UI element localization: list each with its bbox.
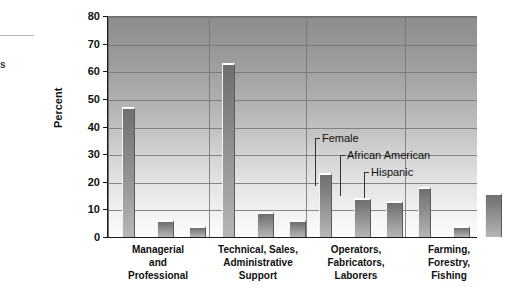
annotation-label: African American [347, 149, 430, 161]
y-axis-title: Percent [52, 48, 66, 128]
bar[interactable] [485, 193, 502, 237]
y-tick-mark [103, 209, 107, 210]
y-tick-mark [103, 182, 107, 183]
bar[interactable] [354, 198, 371, 237]
bar[interactable] [157, 220, 174, 237]
bar[interactable] [257, 212, 274, 237]
category-label: Farming, Forestry, Fishing [389, 243, 506, 282]
y-tick-mark [103, 154, 107, 155]
bar[interactable] [289, 220, 306, 237]
annotation-label: Hispanic [371, 166, 413, 178]
y-tick-mark [103, 71, 107, 72]
bar[interactable] [189, 226, 206, 237]
annotation-leader-vertical [364, 172, 365, 198]
y-tick-mark [103, 127, 107, 128]
y-tick-label: 10 [76, 204, 100, 215]
y-tick-label: 70 [76, 39, 100, 50]
annotation-leader-vertical [340, 155, 341, 196]
y-tick-label: 40 [76, 122, 100, 133]
annotation-leader-vertical [315, 138, 316, 186]
bar[interactable] [122, 107, 135, 237]
bar[interactable] [222, 63, 235, 237]
bar[interactable] [319, 173, 332, 237]
y-tick-mark [103, 44, 107, 45]
y-tick-mark [103, 99, 107, 100]
bar[interactable] [453, 226, 470, 237]
bar[interactable] [418, 187, 431, 237]
y-tick-label: 60 [76, 66, 100, 77]
annotation-label: Female [322, 132, 359, 144]
y-tick-label: 30 [76, 149, 100, 160]
y-tick-mark [103, 16, 107, 17]
bar[interactable] [386, 201, 403, 237]
y-tick-label: 20 [76, 177, 100, 188]
y-tick-label: 50 [76, 94, 100, 105]
y-tick-label: 0 [76, 232, 100, 243]
y-tick-label: 80 [76, 11, 100, 22]
y-tick-mark [103, 237, 107, 238]
